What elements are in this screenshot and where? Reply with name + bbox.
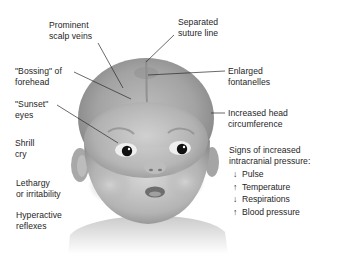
up-arrow-icon: ↑ xyxy=(233,206,242,219)
label-shrill-cry: Shrill cry xyxy=(15,138,34,159)
icp-signs-list: ↓Pulse ↑Temperature ↓Respirations ↑Blood… xyxy=(233,168,300,218)
icp-signs-heading: Signs of increased intracranial pressure… xyxy=(229,145,310,166)
suture-line xyxy=(146,60,147,102)
nose xyxy=(144,160,166,174)
label-increased-head-circumference: Increased head circumference xyxy=(228,108,288,129)
label-separated-suture-line: Separated suture line xyxy=(178,17,218,38)
label-sunset-eyes: "Sunset" eyes xyxy=(15,99,48,120)
down-arrow-icon: ↓ xyxy=(233,168,242,181)
up-arrow-icon: ↑ xyxy=(233,181,242,194)
icp-sign-item: ↓Pulse xyxy=(233,168,300,181)
icp-sign-item: ↑Blood pressure xyxy=(233,206,300,219)
label-lethargy-or-irritability: Lethargy or irritability xyxy=(16,178,61,199)
label-enlarged-fontanelles: Enlarged fontanelles xyxy=(228,66,270,87)
label-prominent-scalp-veins: Prominent scalp veins xyxy=(49,20,92,41)
down-arrow-icon: ↓ xyxy=(233,193,242,206)
label-hyperactive-reflexes: Hyperactive reflexes xyxy=(16,210,62,231)
label-bossing-of-forehead: "Bossing" of forehead xyxy=(15,66,62,87)
fontanelle xyxy=(134,67,158,79)
icp-sign-item: ↑Temperature xyxy=(233,181,300,194)
icp-sign-item: ↓Respirations xyxy=(233,193,300,206)
